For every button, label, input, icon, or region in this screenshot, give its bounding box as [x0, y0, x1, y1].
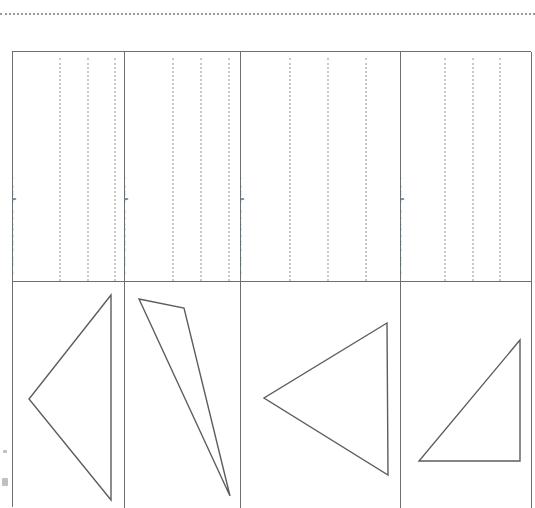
observation-cell-2[interactable]: J'ai observé que : [125, 52, 240, 281]
writing-guide-line [444, 58, 446, 281]
observation-label-4: J'ai observé que : [401, 176, 403, 275]
table-column-1: J'ai observé que : [13, 52, 125, 508]
observation-cell-1[interactable]: J'ai observé que : [13, 52, 124, 281]
triangle-shape-3 [264, 323, 388, 475]
triangle-rectangle-svg [401, 281, 531, 508]
observation-cell-4[interactable]: J'ai observé que : [401, 52, 531, 281]
shape-cell-2 [125, 281, 240, 508]
triangle-shape-4 [419, 340, 520, 461]
writing-guide-line [228, 58, 230, 281]
margin-fragment-mark [2, 478, 8, 486]
triangle-isocele-pointe-gauche-svg [13, 281, 124, 508]
worksheet-table: J'ai observé que : J'ai observé que : [12, 51, 531, 507]
triangle-shape-2 [139, 299, 230, 496]
writing-guide-line [289, 58, 291, 281]
writing-guide-line [172, 58, 174, 281]
writing-guide-line [327, 58, 329, 281]
table-column-4: J'ai observé que : [401, 52, 532, 508]
writing-guide-line [472, 58, 474, 281]
observation-label-3: J'ai observé que : [241, 176, 243, 275]
triangle-scalene-etroit-svg [125, 281, 240, 508]
cut-line-dotted [0, 13, 535, 15]
shape-cell-4 [401, 281, 531, 508]
observation-label-2: J'ai observé que : [125, 176, 127, 275]
observation-cell-3[interactable]: J'ai observé que : [241, 52, 400, 281]
shape-cell-3 [241, 281, 400, 508]
writing-guide-line [59, 58, 61, 281]
writing-guide-line [499, 58, 501, 281]
writing-guide-line [87, 58, 89, 281]
writing-guide-line [365, 58, 367, 281]
writing-guide-line [114, 58, 116, 281]
writing-guide-line [200, 58, 202, 281]
margin-fragment-mark [3, 450, 7, 453]
triangle-shape-1 [29, 295, 111, 500]
observation-label-1: J'ai observé que : [13, 176, 15, 275]
table-column-2: J'ai observé que : [125, 52, 241, 508]
margin-cutoff-fragments [0, 440, 9, 500]
triangle-isocele-large-svg [241, 281, 400, 508]
table-column-3: J'ai observé que : [241, 52, 401, 508]
shape-cell-1 [13, 281, 124, 508]
